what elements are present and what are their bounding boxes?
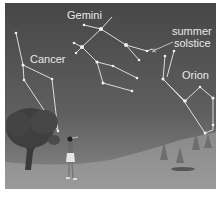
label-solstice: solstice (174, 37, 211, 49)
label-summer: summer (172, 25, 212, 37)
label-orion: Orion (182, 69, 209, 81)
constellation-illustration: ✕ Gemini Cancer summer solstice Orion (0, 0, 219, 198)
solstice-marker-icon: ✕ (151, 47, 157, 54)
label-gemini: Gemini (67, 9, 102, 21)
sky-scene: ✕ Gemini Cancer summer solstice Orion (0, 0, 219, 198)
label-cancer: Cancer (30, 53, 66, 65)
